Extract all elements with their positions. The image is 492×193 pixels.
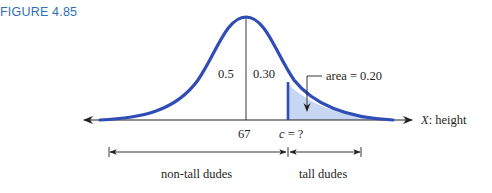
x-axis-label: X: height (420, 113, 467, 127)
tall-group-label: tall dudes (299, 167, 347, 181)
mean-label: 67 (238, 127, 251, 141)
normal-curve-diagram: 0.5 0.30 area = 0.20 67 c = ? X: height … (0, 0, 492, 193)
cutoff-label: c = ? (279, 127, 304, 141)
non-tall-group-label: non-tall dudes (161, 167, 232, 181)
left-half-area-label: 0.5 (218, 67, 234, 81)
tail-area-callout: area = 0.20 (326, 69, 382, 83)
middle-area-label: 0.30 (253, 67, 275, 81)
